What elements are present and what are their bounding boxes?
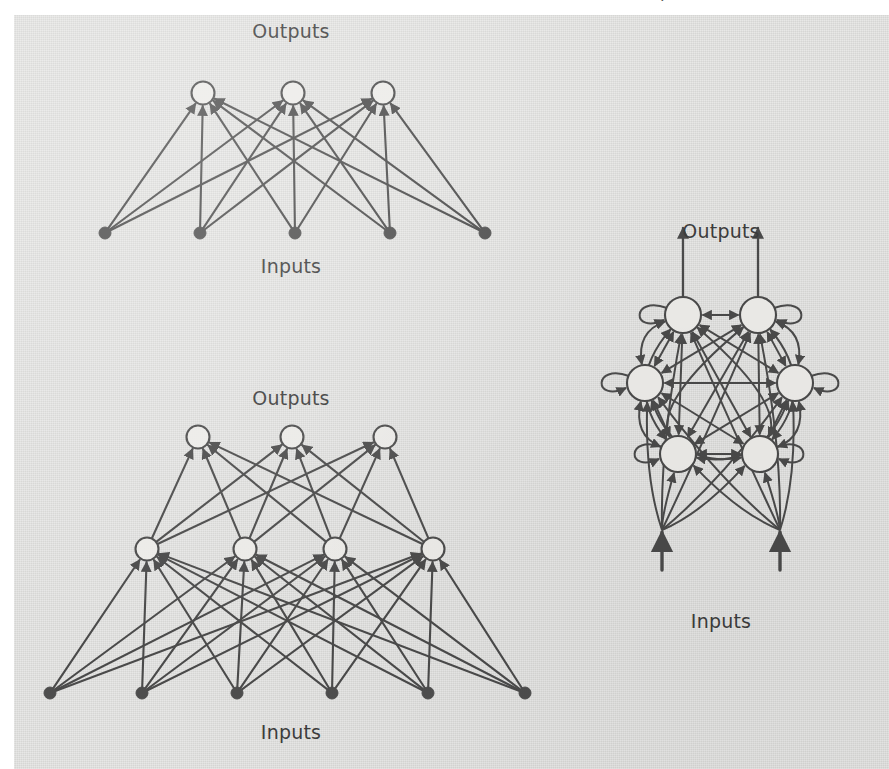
input-node [231,687,243,699]
neural-network-diagrams: OutputsInputsOutputsInputsOutputsInputs [14,15,889,769]
neuron-node [324,538,347,561]
neuron-node [192,82,215,105]
connection-edge [200,106,203,228]
connection-edge [302,445,425,542]
connection-edge [345,557,521,690]
recurrent-edge [758,334,759,434]
neuron-node [187,426,210,449]
neuron-node [282,82,305,105]
input-node [384,227,396,239]
input-node [422,687,434,699]
neuron-node [372,82,395,105]
neuron-node [777,365,813,401]
figure-page: p OutputsInputsOutputsInputsOutputsInput… [0,0,889,769]
input-node [44,687,56,699]
input-node [194,227,206,239]
neuron-node [665,297,701,333]
connection-edge [210,104,292,229]
connection-edge [332,562,335,688]
connection-edge [109,99,371,231]
clipped-caption-fragment: p [660,0,671,1]
label-bl-outputs: Outputs [252,387,329,409]
self-loop-edge [602,373,629,391]
neuron-node [281,426,304,449]
figure-panel: OutputsInputsOutputsInputsOutputsInputs [14,15,889,769]
input-node [479,227,491,239]
connection-edge [391,104,482,229]
input-node [289,227,301,239]
self-loop-edge [811,373,838,391]
slp-edges [108,99,482,231]
connection-edge [252,560,330,689]
label-tl-inputs: Inputs [261,255,321,277]
neuron-node [374,426,397,449]
connection-edge [293,106,295,228]
neuron-node [234,538,257,561]
connection-edge [159,554,520,692]
input-node [99,227,111,239]
label-tl-outputs: Outputs [252,20,329,42]
label-r-outputs: Outputs [682,220,759,242]
mlp-edges [53,443,523,692]
input-fanout-edge [780,402,794,530]
neuron-node [136,538,159,561]
connection-edge [297,449,332,539]
neuron-node [742,436,778,472]
self-loop-edge [774,305,801,323]
connection-edge [215,99,481,231]
connection-edge [208,445,327,542]
connection-edge [339,449,379,540]
connection-edge [203,104,286,229]
input-node [326,687,338,699]
connection-edge [151,449,192,540]
neuron-node [660,436,696,472]
connection-edge [203,449,241,539]
connection-edge [298,104,376,229]
connection-edge [428,562,432,688]
recurrent-edge-curved [778,402,801,447]
label-r-inputs: Inputs [691,610,751,632]
label-bl-inputs: Inputs [261,721,321,743]
input-node [136,687,148,699]
recurrent-edge [692,332,750,437]
figure-labels: OutputsInputsOutputsInputsOutputsInputs [252,20,759,743]
self-loop-edge [776,444,803,462]
neuron-node [422,538,445,561]
connection-edge [390,449,429,539]
recurrent-edge-curved [641,321,665,364]
self-loop-edge [640,305,667,323]
neuron-node [627,365,663,401]
connection-edge [304,101,481,230]
input-node [519,687,531,699]
neuron-node [740,297,776,333]
connection-edge [384,106,390,228]
